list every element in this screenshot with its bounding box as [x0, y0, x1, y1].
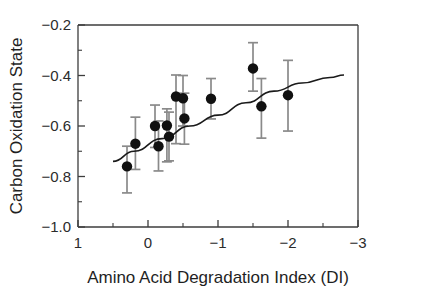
x-tick-label: −2 [279, 234, 296, 251]
chart-figure: 10−1−2−3 −0.2−0.4−0.6−0.8−1.0 Amino Acid… [0, 0, 435, 297]
x-axis-title: Amino Acid Degradation Index (DI) [87, 268, 349, 287]
data-point [122, 161, 132, 171]
data-point [178, 93, 188, 103]
plot-frame [78, 25, 358, 227]
y-axis-title: Carbon Oxidation State [7, 38, 26, 215]
data-point [256, 101, 266, 111]
y-tick-label: −0.6 [41, 117, 71, 134]
y-tick-label: −0.2 [41, 16, 71, 33]
data-point [179, 113, 189, 123]
data-point [130, 138, 140, 148]
y-tick-label: −0.4 [41, 67, 71, 84]
trend-line [113, 75, 344, 161]
data-point [150, 121, 160, 131]
x-tick-label: −1 [209, 234, 226, 251]
data-point [162, 120, 172, 130]
y-tick-label: −0.8 [41, 168, 71, 185]
scatter-plot: 10−1−2−3 −0.2−0.4−0.6−0.8−1.0 Amino Acid… [0, 0, 435, 297]
fit-curve [113, 75, 344, 161]
x-tick-labels: 10−1−2−3 [74, 234, 367, 251]
axis-ticks [78, 25, 358, 227]
data-point [153, 141, 163, 151]
data-point [248, 63, 258, 73]
data-point [206, 94, 216, 104]
y-tick-labels: −0.2−0.4−0.6−0.8−1.0 [41, 16, 71, 235]
x-tick-label: 0 [144, 234, 152, 251]
data-point [283, 90, 293, 100]
data-point [164, 131, 174, 141]
y-tick-label: −1.0 [41, 218, 71, 235]
x-tick-label: 1 [74, 234, 82, 251]
x-tick-label: −3 [349, 234, 366, 251]
